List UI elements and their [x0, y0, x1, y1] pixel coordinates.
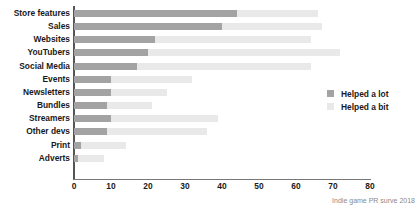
legend-label: Helped a lot: [341, 89, 388, 99]
x-tick-label: 0: [62, 181, 86, 191]
category-label: Adverts: [0, 154, 70, 163]
bar-row: [74, 139, 370, 152]
bar-row: [74, 46, 370, 59]
chart-legend: Helped a lotHelped a bit: [327, 88, 388, 114]
x-tick-label: 30: [173, 181, 197, 191]
x-tick-label: 60: [284, 181, 308, 191]
legend-label: Helped a bit: [341, 102, 388, 112]
bar-segment-helped-a-lot: [74, 23, 222, 30]
bar-segment-helped-a-lot: [74, 142, 81, 149]
x-tick-label: 20: [136, 181, 160, 191]
bar-segment-helped-a-bit: [111, 89, 167, 96]
bar-segment-helped-a-bit: [111, 76, 192, 83]
bar-row: [74, 125, 370, 138]
bar-row: [74, 73, 370, 86]
bar-segment-helped-a-lot: [74, 76, 111, 83]
x-tick-label: 80: [358, 181, 382, 191]
category-label: Events: [0, 75, 70, 84]
bar-segment-helped-a-lot: [74, 89, 111, 96]
bar-segment-helped-a-lot: [74, 36, 155, 43]
chart-caption: Indie game PR surve 2018: [332, 197, 415, 204]
legend-swatch-icon: [327, 90, 334, 97]
bar-row: [74, 33, 370, 46]
bar-segment-helped-a-lot: [74, 49, 148, 56]
bar-segment-helped-a-lot: [74, 10, 237, 17]
category-label: Newsletters: [0, 88, 70, 97]
legend-item: Helped a bit: [327, 101, 388, 112]
bar-segment-helped-a-bit: [78, 155, 104, 162]
bar-row: [74, 99, 370, 112]
category-label: Sales: [0, 22, 70, 31]
category-axis-labels: Store featuresSalesWebsitesYouTubersSoci…: [0, 7, 70, 178]
bar-row: [74, 112, 370, 125]
bar-segment-helped-a-lot: [74, 128, 107, 135]
bar-row: [74, 152, 370, 165]
bar-segment-helped-a-bit: [155, 36, 310, 43]
category-label: Store features: [0, 9, 70, 18]
bar-segment-helped-a-bit: [107, 128, 207, 135]
category-label: Websites: [0, 35, 70, 44]
x-tick-label: 10: [99, 181, 123, 191]
horizontal-stacked-bar-chart: Store featuresSalesWebsitesYouTubersSoci…: [0, 0, 418, 211]
category-label: Streamers: [0, 114, 70, 123]
x-tick-label: 50: [247, 181, 271, 191]
bar-segment-helped-a-bit: [111, 115, 218, 122]
x-tick-label: 40: [210, 181, 234, 191]
x-axis-line: [73, 179, 371, 180]
category-label: Print: [0, 141, 70, 150]
category-label: Bundles: [0, 101, 70, 110]
bar-segment-helped-a-bit: [81, 142, 125, 149]
bar-row: [74, 60, 370, 73]
bar-row: [74, 7, 370, 20]
bar-row: [74, 20, 370, 33]
bar-segment-helped-a-bit: [148, 49, 340, 56]
bar-segment-helped-a-bit: [237, 10, 318, 17]
bar-segment-helped-a-bit: [107, 102, 151, 109]
category-label: Social Media: [0, 62, 70, 71]
bar-segment-helped-a-bit: [222, 23, 322, 30]
legend-swatch-icon: [327, 103, 334, 110]
category-label: Other devs: [0, 127, 70, 136]
category-label: YouTubers: [0, 48, 70, 57]
x-tick-label: 70: [321, 181, 345, 191]
bar-row: [74, 86, 370, 99]
legend-item: Helped a lot: [327, 88, 388, 99]
bar-segment-helped-a-lot: [74, 115, 111, 122]
bar-segment-helped-a-bit: [137, 63, 311, 70]
bar-segment-helped-a-lot: [74, 102, 107, 109]
plot-area: [74, 7, 370, 178]
bar-segment-helped-a-lot: [74, 63, 137, 70]
